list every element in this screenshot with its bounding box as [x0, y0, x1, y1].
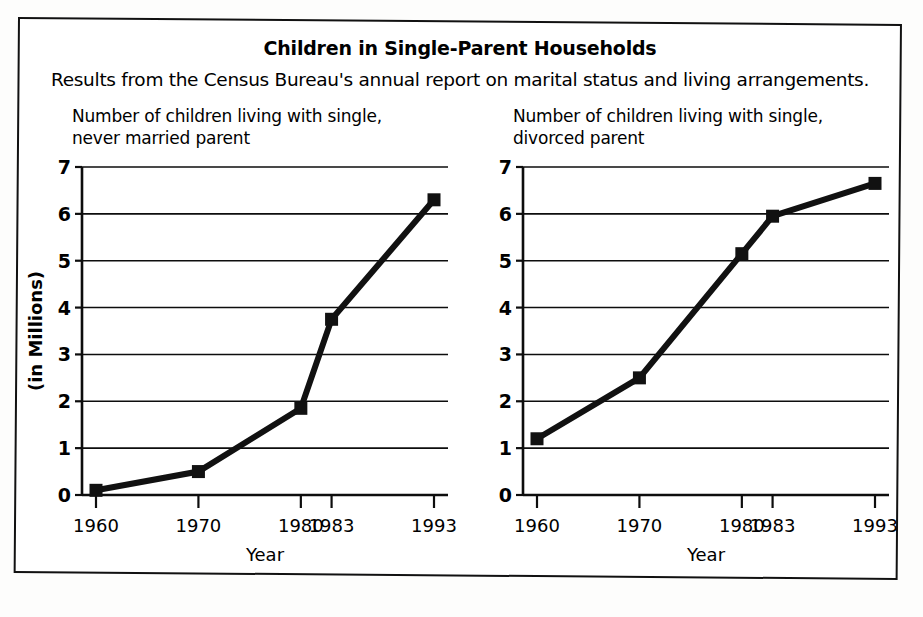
figure-content: Children in Single-Parent Households Res… — [18, 17, 902, 573]
data-point-1983 — [325, 313, 338, 326]
y-tick-label-7: 7 — [499, 156, 512, 178]
data-series-line — [96, 200, 434, 491]
y-tick-label-0: 0 — [499, 484, 512, 506]
y-tick-label-1: 1 — [499, 437, 512, 459]
y-tick-label-2: 2 — [499, 390, 512, 412]
y-tick-label-7: 7 — [58, 156, 71, 178]
x-tick-label-1993: 1993 — [852, 515, 898, 536]
y-tick-label-4: 4 — [58, 297, 71, 319]
x-axis-title: Year — [245, 544, 285, 565]
x-tick-label-1960: 1960 — [73, 515, 119, 536]
line-chart-never-married: 0123456719601970198019831993Year(in Mill… — [20, 105, 460, 565]
x-axis-title: Year — [686, 544, 726, 565]
y-tick-label-3: 3 — [499, 343, 512, 365]
data-point-1993 — [428, 193, 441, 206]
y-axis-title: (in Millions) — [25, 271, 46, 391]
y-tick-label-5: 5 — [499, 250, 512, 272]
x-tick-label-1983: 1983 — [750, 515, 796, 536]
data-point-1993 — [869, 177, 882, 190]
data-point-1960 — [531, 432, 544, 445]
data-point-1970 — [192, 465, 205, 478]
x-tick-label-1970: 1970 — [617, 515, 663, 536]
x-tick-label-1960: 1960 — [514, 515, 560, 536]
y-tick-label-0: 0 — [58, 484, 71, 506]
y-tick-label-1: 1 — [58, 437, 71, 459]
y-tick-label-3: 3 — [58, 343, 71, 365]
x-tick-label-1993: 1993 — [411, 515, 457, 536]
x-tick-label-1983: 1983 — [309, 515, 355, 536]
y-tick-label-6: 6 — [499, 203, 512, 225]
y-tick-label-6: 6 — [58, 203, 71, 225]
data-point-1970 — [633, 371, 646, 384]
figure-subtitle: Results from the Census Bureau's annual … — [18, 69, 902, 90]
data-point-1983 — [766, 210, 779, 223]
y-tick-label-5: 5 — [58, 250, 71, 272]
page-canvas: Children in Single-Parent Households Res… — [0, 0, 923, 617]
data-point-1980 — [735, 247, 748, 260]
figure-title: Children in Single-Parent Households — [18, 37, 902, 59]
line-chart-divorced: 0123456719601970198019831993Year — [461, 105, 901, 565]
chart-panel-right: Number of children living with single, d… — [461, 105, 901, 565]
data-series-line — [537, 183, 875, 438]
data-point-1980 — [294, 402, 307, 415]
y-tick-label-2: 2 — [58, 390, 71, 412]
data-point-1960 — [90, 484, 103, 497]
chart-panel-left: Number of children living with single, n… — [20, 105, 460, 565]
y-tick-label-4: 4 — [499, 297, 512, 319]
x-tick-label-1970: 1970 — [176, 515, 222, 536]
